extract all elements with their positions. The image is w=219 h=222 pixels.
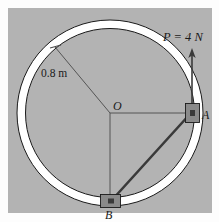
ring-mechanics-diagram: P = 4 N 0.8 m O A B xyxy=(0,0,219,222)
center-label: O xyxy=(113,99,122,113)
radius-label: 0.8 m xyxy=(41,67,67,79)
force-label: P = 4 N xyxy=(162,30,203,44)
figure-container: P = 4 N 0.8 m O A B xyxy=(0,0,219,222)
collar-a-pin-icon xyxy=(190,110,195,116)
collar-b-pin-icon xyxy=(108,199,114,204)
point-a-label: A xyxy=(201,108,210,122)
point-b-label: B xyxy=(105,208,113,222)
